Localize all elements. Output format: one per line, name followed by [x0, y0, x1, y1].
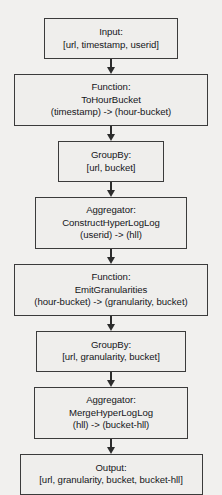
node-group-by-url-bucket: GroupBy: [url, bucket]: [58, 141, 164, 182]
node-to-hour-bucket-line-2: (timestamp) -> (hour-bucket): [51, 106, 171, 119]
node-output: Output: [url, granularity, bucket, bucke…: [20, 454, 203, 495]
node-merge-hyperloglog-line-1: MergeHyperLogLog: [69, 407, 153, 420]
node-merge-hyperloglog-line-2: (hll) -> (bucket-hll): [73, 419, 150, 432]
arrowhead-down-icon: [107, 257, 115, 264]
pipeline-flowchart: Input: [url, timestamp, userid] Function…: [0, 0, 222, 495]
node-merge-hyperloglog: Aggregator: MergeHyperLogLog (hll) -> (b…: [34, 387, 188, 440]
arrow-groupby1-to-construct: [106, 182, 117, 197]
node-group-by-url-bucket-line-0: GroupBy:: [91, 149, 131, 162]
arrowhead-down-icon: [107, 67, 115, 74]
arrowhead-down-icon: [107, 324, 115, 331]
node-input-line-1: [url, timestamp, userid]: [63, 39, 159, 52]
arrow-tohourbucket-to-groupby1: [106, 126, 117, 141]
node-to-hour-bucket-line-0: Function:: [91, 81, 130, 94]
node-group-by-url-granularity-bucket-line-1: [url, granularity, bucket]: [62, 351, 160, 364]
arrowhead-down-icon: [107, 190, 115, 197]
node-output-line-0: Output:: [95, 462, 126, 475]
arrowhead-down-icon: [107, 380, 115, 387]
node-input: Input: [url, timestamp, userid]: [44, 18, 178, 59]
node-group-by-url-granularity-bucket: GroupBy: [url, granularity, bucket]: [36, 331, 186, 372]
node-construct-hyperloglog: Aggregator: ConstructHyperLogLog (userid…: [35, 197, 187, 250]
node-group-by-url-granularity-bucket-line-0: GroupBy:: [91, 339, 131, 352]
node-emit-granularities-line-1: EmitGranularities: [75, 284, 148, 297]
node-construct-hyperloglog-line-2: (userid) -> (hll): [80, 229, 142, 242]
arrow-merge-to-output: [106, 439, 117, 454]
node-construct-hyperloglog-line-0: Aggregator:: [86, 204, 136, 217]
arrow-emit-to-groupby2: [106, 316, 117, 331]
arrowhead-down-icon: [107, 447, 115, 454]
arrow-construct-to-emit: [106, 249, 117, 264]
node-output-line-1: [url, granularity, bucket, bucket-hll]: [39, 474, 183, 487]
node-group-by-url-bucket-line-1: [url, bucket]: [87, 162, 136, 175]
node-to-hour-bucket-line-1: ToHourBucket: [81, 94, 141, 107]
arrow-groupby2-to-merge: [106, 372, 117, 387]
node-input-line-0: Input:: [99, 26, 123, 39]
node-emit-granularities: Function: EmitGranularities (hour-bucket…: [14, 264, 208, 317]
node-emit-granularities-line-2: (hour-bucket) -> (granularity, bucket): [34, 296, 187, 309]
arrowhead-down-icon: [107, 134, 115, 141]
node-emit-granularities-line-0: Function:: [91, 271, 130, 284]
node-construct-hyperloglog-line-1: ConstructHyperLogLog: [62, 217, 160, 230]
node-to-hour-bucket: Function: ToHourBucket (timestamp) -> (h…: [14, 74, 208, 127]
arrow-input-to-tohourbucket: [106, 59, 117, 74]
node-merge-hyperloglog-line-0: Aggregator:: [86, 394, 136, 407]
